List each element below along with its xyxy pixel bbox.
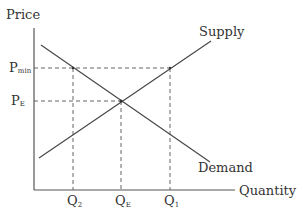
q2-label: Q2 — [67, 193, 82, 209]
demand-curve — [41, 45, 210, 162]
equilibrium-point — [120, 100, 123, 103]
pe-label: PE — [11, 93, 25, 108]
qe-label: QE — [115, 193, 131, 209]
x-axis-label: Quantity — [239, 183, 297, 198]
supply-demand-diagram: Price Quantity Supply Demand Pmin PE Q2 … — [0, 0, 300, 215]
pmin-demand-point — [72, 67, 74, 69]
pmin-label: Pmin — [9, 60, 32, 75]
demand-label: Demand — [198, 160, 253, 175]
y-axis-label: Price — [6, 7, 40, 22]
pmin-supply-point — [169, 67, 171, 69]
supply-curve — [39, 41, 211, 158]
supply-label: Supply — [199, 24, 245, 39]
q1-label: Q1 — [164, 193, 179, 209]
